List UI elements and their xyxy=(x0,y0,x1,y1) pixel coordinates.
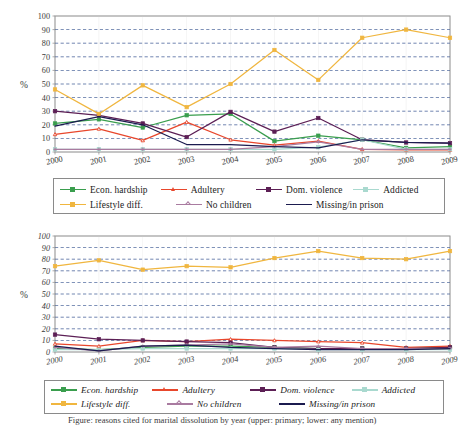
chart-primary-legend: Econ. hardshipAdulteryDom. violenceAddic… xyxy=(53,178,445,214)
svg-text:10: 10 xyxy=(42,134,50,143)
svg-text:60: 60 xyxy=(42,278,50,287)
missing_in_prison-swatch-icon xyxy=(279,399,305,409)
svg-text:2006: 2006 xyxy=(309,354,328,366)
legend-label: Lifestyle diff. xyxy=(81,399,130,409)
svg-text:60: 60 xyxy=(42,66,50,75)
svg-text:2003: 2003 xyxy=(177,154,195,166)
addicted-swatch-icon xyxy=(353,185,379,195)
svg-text:2004: 2004 xyxy=(221,154,240,166)
svg-text:2008: 2008 xyxy=(396,354,415,366)
svg-text:2008: 2008 xyxy=(396,154,414,166)
svg-text:2003: 2003 xyxy=(177,354,195,366)
svg-text:2007: 2007 xyxy=(353,154,371,166)
legend-item-missing_in_prison: Missing/in prison xyxy=(286,200,398,210)
square-marker-icon xyxy=(363,187,368,192)
legend-item-addicted: Addicted xyxy=(353,185,440,195)
chart-any-mention-legend: Econ. hardshipAdulteryDom. violenceAddic… xyxy=(44,380,444,414)
square-marker-icon xyxy=(362,387,367,392)
svg-text:30: 30 xyxy=(42,107,50,116)
figure-page: 0102030405060708090100%20002001200220032… xyxy=(0,0,468,425)
legend-item-adultery: Adultery xyxy=(161,185,256,195)
svg-text:2007: 2007 xyxy=(353,354,372,366)
lifestyle_diff-swatch-icon xyxy=(51,399,77,409)
plus-marker-icon xyxy=(176,400,182,406)
legend-item-lifestyle_diff: Lifestyle diff. xyxy=(60,200,176,210)
legend-label: Lifestyle diff. xyxy=(90,200,143,210)
legend-item-dom_violence: Dom. violence xyxy=(250,385,351,395)
svg-text:20: 20 xyxy=(42,325,50,334)
svg-text:2002: 2002 xyxy=(133,354,151,366)
svg-text:2005: 2005 xyxy=(265,354,283,366)
legend-row: Econ. hardshipAdulteryDom. violenceAddic… xyxy=(51,383,439,397)
addicted-swatch-icon xyxy=(352,385,378,395)
no_children-swatch-icon xyxy=(176,200,202,210)
legend-row: Econ. hardshipAdulteryDom. violenceAddic… xyxy=(60,182,440,197)
legend-item-lifestyle_diff: Lifestyle diff. xyxy=(51,399,167,409)
legend-item-econ_hardship: Econ. hardship xyxy=(60,185,161,195)
svg-text:2009: 2009 xyxy=(440,354,459,366)
chart-primary-svg: 0102030405060708090100%20002001200220032… xyxy=(0,6,468,176)
svg-text:2005: 2005 xyxy=(265,154,283,166)
square-marker-icon xyxy=(70,202,75,207)
svg-text:100: 100 xyxy=(38,12,50,21)
square-marker-icon xyxy=(61,387,66,392)
svg-text:100: 100 xyxy=(38,232,50,241)
svg-text:%: % xyxy=(20,290,28,300)
dom_violence-swatch-icon xyxy=(256,185,282,195)
no_children-swatch-icon xyxy=(167,399,193,409)
svg-text:2001: 2001 xyxy=(89,354,107,366)
triangle-marker-icon xyxy=(171,187,175,191)
chart-any-mention-container: 0102030405060708090100%20002001200220032… xyxy=(0,228,468,373)
missing_in_prison-swatch-icon xyxy=(286,200,312,210)
series-lifestyle_diff xyxy=(53,249,451,271)
svg-text:70: 70 xyxy=(42,267,50,276)
legend-item-missing_in_prison: Missing/in prison xyxy=(279,399,395,409)
legend-item-adultery: Adultery xyxy=(152,385,250,395)
legend-label: Econ. hardship xyxy=(81,385,138,395)
square-marker-icon xyxy=(70,187,75,192)
svg-text:80: 80 xyxy=(42,39,50,48)
svg-text:40: 40 xyxy=(42,302,50,311)
econ_hardship-swatch-icon xyxy=(60,185,86,195)
legend-item-dom_violence: Dom. violence xyxy=(256,185,353,195)
svg-text:40: 40 xyxy=(42,94,50,103)
svg-text:30: 30 xyxy=(41,313,50,322)
chart-any-mention-svg: 0102030405060708090100%20002001200220032… xyxy=(0,228,468,376)
svg-text:70: 70 xyxy=(42,53,50,62)
figure-caption: Figure: reasons cited for marital dissol… xyxy=(68,415,428,425)
square-marker-icon xyxy=(260,387,265,392)
square-marker-icon xyxy=(266,187,271,192)
econ_hardship-swatch-icon xyxy=(51,385,77,395)
svg-text:0: 0 xyxy=(46,148,50,157)
legend-label: Missing/in prison xyxy=(316,200,384,210)
dom_violence-swatch-icon xyxy=(250,385,276,395)
legend-item-no_children: No children xyxy=(167,399,279,409)
legend-item-econ_hardship: Econ. hardship xyxy=(51,385,152,395)
legend-label: Missing/in prison xyxy=(309,399,375,409)
svg-text:%: % xyxy=(20,80,28,90)
triangle-marker-icon xyxy=(162,387,166,391)
legend-label: Econ. hardship xyxy=(90,185,148,195)
adultery-swatch-icon xyxy=(152,385,178,395)
svg-text:2009: 2009 xyxy=(440,154,458,166)
svg-text:0: 0 xyxy=(46,348,50,357)
svg-text:80: 80 xyxy=(42,255,50,264)
svg-text:2006: 2006 xyxy=(309,154,327,166)
legend-label: No children xyxy=(197,399,241,409)
legend-item-no_children: No children xyxy=(176,200,286,210)
svg-text:90: 90 xyxy=(42,26,50,35)
legend-label: Dom. violence xyxy=(280,385,334,395)
svg-text:50: 50 xyxy=(42,290,50,299)
series-lifestyle_diff xyxy=(53,28,451,116)
svg-text:2001: 2001 xyxy=(89,154,107,166)
legend-label: Dom. violence xyxy=(286,185,343,195)
svg-text:10: 10 xyxy=(42,336,50,345)
chart-primary-container: 0102030405060708090100%20002001200220032… xyxy=(0,6,468,174)
legend-label: Addicted xyxy=(382,385,415,395)
svg-text:50: 50 xyxy=(42,80,50,89)
legend-row: Lifestyle diff.No childrenMissing/in pri… xyxy=(51,397,439,411)
lifestyle_diff-swatch-icon xyxy=(60,200,86,210)
legend-item-addicted: Addicted xyxy=(352,385,439,395)
svg-text:20: 20 xyxy=(42,121,50,130)
adultery-swatch-icon xyxy=(161,185,187,195)
